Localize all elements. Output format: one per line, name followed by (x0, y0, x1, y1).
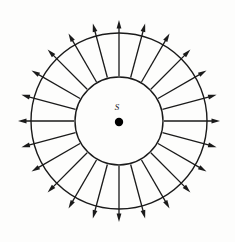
radial-field-diagram: S (0, 0, 235, 242)
field-arrow (93, 23, 108, 77)
arrow-head-icon (117, 20, 122, 29)
arrow-head-icon (117, 214, 122, 223)
figure-container: S (0, 0, 235, 242)
field-arrow (117, 166, 122, 222)
field-arrow (162, 95, 216, 110)
arrow-head-icon (198, 71, 207, 77)
arrow-head-icon (21, 95, 30, 100)
source-label: S (115, 102, 120, 112)
point-source-dot (115, 118, 123, 126)
arrow-head-icon (208, 143, 217, 148)
arrow-head-icon (212, 119, 221, 124)
field-arrow (21, 133, 75, 148)
arrow-head-icon (69, 200, 75, 209)
arrow-head-icon (141, 23, 146, 32)
field-arrow (93, 164, 108, 218)
arrow-head-icon (93, 23, 98, 32)
field-arrow (18, 119, 74, 124)
arrow-head-icon (163, 200, 169, 209)
arrow-head-icon (69, 34, 75, 43)
field-arrow (164, 119, 220, 124)
field-arrow (131, 23, 146, 77)
field-arrow (117, 20, 122, 76)
field-arrow (131, 164, 146, 218)
arrow-head-icon (163, 34, 169, 43)
arrow-head-icon (21, 143, 30, 148)
arrow-head-icon (93, 210, 98, 219)
arrow-head-icon (32, 165, 41, 171)
arrow-head-icon (141, 210, 146, 219)
arrow-head-icon (18, 119, 27, 124)
arrow-head-icon (198, 165, 207, 171)
arrow-head-icon (32, 71, 41, 77)
arrow-head-icon (208, 95, 217, 100)
field-arrow (162, 133, 216, 148)
field-arrow (21, 95, 75, 110)
